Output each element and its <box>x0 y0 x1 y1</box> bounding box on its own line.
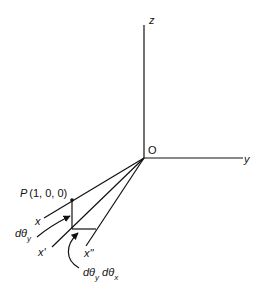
rotation-diagram: z y O P(1, 0, 0) x dθy x' x'' dθydθx <box>0 0 262 297</box>
x-double-prime-label: x'' <box>83 247 95 259</box>
point-p <box>70 198 74 202</box>
x-prime-label: x' <box>37 246 47 258</box>
x-double-prime-line <box>86 158 144 246</box>
y-axis-label: y <box>243 153 251 165</box>
x-label: x <box>34 215 41 227</box>
x-prime-line <box>52 158 144 247</box>
d-theta-y-label: dθy <box>15 227 32 243</box>
d-theta-xy-label: dθydθx <box>83 266 119 282</box>
point-p-label: P(1, 0, 0) <box>20 187 67 199</box>
z-axis-label: z <box>148 14 155 26</box>
origin-label: O <box>148 144 157 156</box>
d-theta-xy-arrow <box>68 233 79 268</box>
